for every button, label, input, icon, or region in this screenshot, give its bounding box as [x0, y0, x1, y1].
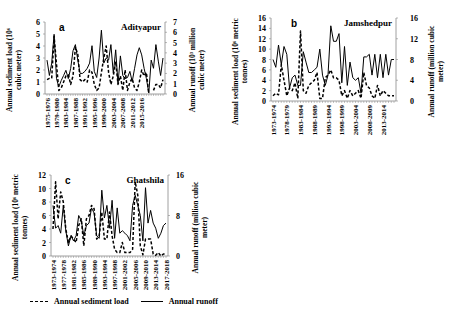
- y-left-tick-label: 10: [38, 185, 46, 194]
- y-left-tick-label: 0: [42, 252, 46, 261]
- x-tick-label: 1973-1974: [50, 260, 58, 291]
- runoff-line: [273, 26, 394, 93]
- y-left-tick-label: 4: [36, 42, 40, 51]
- y-left-tick-label: 10: [258, 45, 266, 54]
- legend-runoff-label: Annual runoff: [169, 297, 218, 306]
- y-left-tick-label: 16: [258, 14, 266, 23]
- x-tick-label: 1983-1984: [297, 105, 305, 136]
- y-right-axis-label: Annual runoff (10³ million: [188, 27, 197, 112]
- y-left-tick-label: 2: [262, 87, 266, 96]
- y-left-tick-label: 12: [38, 171, 46, 180]
- y-left-tick-label: 2: [36, 66, 40, 75]
- x-tick-label: 1975-1976: [44, 98, 52, 129]
- y-left-axis-label: cubic meter): [14, 49, 23, 90]
- y-left-tick-label: 3: [36, 54, 40, 63]
- y-right-tick-label: 0: [173, 90, 177, 99]
- x-tick-label: 2015-2016: [138, 98, 146, 129]
- y-right-tick-label: 6: [173, 28, 177, 37]
- y-right-tick-label: 2: [173, 69, 177, 78]
- y-right-tick-label: 8: [410, 56, 414, 65]
- panel-title: Ghatshila: [126, 175, 164, 185]
- x-tick-label: 2008-2009: [366, 105, 374, 136]
- chart-panel-b: 024681012141604812161973-19741978-197919…: [231, 14, 445, 135]
- y-right-tick-label: 0: [176, 252, 180, 261]
- y-right-tick-label: 5: [173, 39, 177, 48]
- legend-solid-line-icon: [141, 301, 163, 302]
- legend-dashed-line-icon: [30, 301, 48, 302]
- y-left-tick-label: 1: [36, 78, 40, 87]
- x-tick-label: 1993-1994: [101, 260, 109, 291]
- x-tick-label: 2011-2012: [129, 98, 137, 128]
- y-left-tick-label: 0: [262, 97, 266, 106]
- x-tick-label: 2003-2004: [110, 98, 118, 129]
- y-left-tick-label: 6: [36, 18, 40, 27]
- runoff-line: [47, 30, 163, 93]
- x-tick-label: 2013-2014: [380, 105, 388, 136]
- y-left-axis-label: Annual sediment load (10⁶ metric: [11, 173, 20, 280]
- panel-letter: a: [59, 22, 65, 33]
- y-left-tick-label: 4: [42, 225, 46, 234]
- y-right-tick-label: 16: [176, 171, 184, 180]
- y-right-tick-label: 1: [173, 80, 177, 89]
- y-right-axis-label: meter): [436, 60, 445, 82]
- x-tick-label: 2013-2014: [152, 260, 160, 291]
- y-right-tick-label: 0: [410, 97, 414, 106]
- x-tick-label: 1995-1996: [91, 98, 99, 129]
- x-tick-label: 1985-1986: [80, 260, 88, 291]
- y-right-tick-label: 16: [410, 14, 418, 23]
- y-left-tick-label: 6: [262, 66, 266, 75]
- chart-legend: Annual sediment load Annual runoff: [30, 297, 218, 306]
- y-left-tick-label: 5: [36, 30, 40, 39]
- y-left-axis-label: tonnes): [240, 59, 249, 83]
- x-tick-label: 1989-1990: [91, 260, 99, 291]
- chart-panel-a: 0123456012345671975-19761979-19801983-19…: [5, 18, 206, 128]
- legend-sediment-label: Annual sediment load: [54, 297, 129, 306]
- x-tick-label: 2003-2004: [352, 105, 360, 136]
- y-right-axis-label: meter): [200, 216, 209, 238]
- sediment-load-line: [47, 36, 163, 94]
- x-tick-label: 1983-1984: [62, 98, 70, 129]
- y-left-tick-label: 14: [258, 24, 266, 33]
- y-left-axis-label: Annual sediment load (10⁶ metric: [231, 17, 240, 124]
- y-right-tick-label: 4: [410, 76, 414, 85]
- y-right-tick-label: 8: [176, 212, 180, 221]
- y-left-tick-label: 2: [42, 239, 46, 248]
- x-tick-label: 1981-1982: [70, 260, 78, 291]
- x-tick-label: 1978-1979: [283, 105, 291, 136]
- y-left-tick-label: 8: [42, 198, 46, 207]
- x-tick-label: 2001-2002: [121, 260, 129, 291]
- y-right-axis-label: Annual runoff (million cubic: [427, 25, 436, 118]
- panel-title: Jamshedpur: [344, 18, 392, 28]
- chart-panel-c: 02468101208161973-19741977-19781981-1982…: [11, 171, 209, 290]
- x-tick-label: 1979-1980: [53, 98, 61, 129]
- chart-figure: 0123456012345671975-19761979-19801983-19…: [0, 0, 454, 326]
- x-tick-label: 1988-1989: [311, 105, 319, 136]
- x-tick-label: 2005-2006: [132, 260, 140, 291]
- y-left-tick-label: 6: [42, 212, 46, 221]
- x-tick-label: 1987-1988: [72, 98, 80, 129]
- y-right-tick-label: 7: [173, 18, 177, 27]
- y-left-tick-label: 12: [258, 35, 266, 44]
- y-left-tick-label: 8: [262, 56, 266, 65]
- x-tick-label: 2007-2008: [119, 98, 127, 129]
- y-right-tick-label: 12: [410, 35, 418, 44]
- x-tick-label: 2017-2018: [163, 260, 171, 291]
- y-right-tick-label: 3: [173, 59, 177, 68]
- x-tick-label: 1973-1974: [270, 105, 278, 136]
- x-tick-label: 1997-1998: [111, 260, 119, 291]
- panel-letter: b: [291, 18, 297, 29]
- y-right-axis-label: Annual runoff (million cubic: [191, 181, 200, 274]
- y-right-tick-label: 4: [173, 49, 177, 58]
- x-tick-label: 1998-1999: [338, 105, 346, 136]
- y-left-tick-label: 0: [36, 90, 40, 99]
- x-tick-label: 1993-1994: [325, 105, 333, 136]
- x-tick-label: 1991-1992: [81, 98, 89, 129]
- y-right-axis-label: cubic meter): [197, 49, 206, 90]
- x-tick-label: 2009-2010: [142, 260, 150, 291]
- panel-title: Adityapur: [121, 22, 161, 32]
- y-left-tick-label: 4: [262, 76, 266, 85]
- x-tick-label: 1977-1978: [60, 260, 68, 291]
- y-left-axis-label: Annual sediment load (10⁶: [5, 27, 14, 112]
- panel-letter: c: [65, 175, 71, 186]
- x-tick-label: 1999-2000: [100, 98, 108, 129]
